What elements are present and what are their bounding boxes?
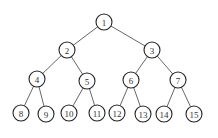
node-label: 1	[102, 18, 107, 28]
node-label: 2	[65, 46, 70, 56]
edge-6-12	[120, 87, 128, 105]
tree-node-12: 12	[109, 105, 125, 121]
node-label: 9	[44, 110, 49, 120]
tree-node-1: 1	[96, 14, 112, 30]
edge-2-4	[43, 56, 61, 74]
tree-node-3: 3	[144, 42, 160, 58]
node-label: 12	[113, 109, 122, 119]
node-label: 4	[35, 75, 40, 85]
node-label: 14	[160, 110, 170, 120]
node-label: 6	[129, 76, 134, 86]
edge-2-5	[71, 57, 82, 75]
node-label: 13	[139, 110, 149, 120]
node-label: 5	[85, 77, 90, 87]
edge-1-3	[111, 26, 145, 46]
tree-node-5: 5	[79, 73, 95, 89]
tree-node-6: 6	[123, 72, 139, 88]
node-label: 7	[176, 76, 181, 86]
binary-tree-diagram: 123456789101112131415	[0, 0, 218, 138]
edge-5-11	[89, 89, 94, 106]
node-label: 3	[150, 46, 155, 56]
node-label: 15	[190, 110, 200, 120]
tree-node-13: 13	[135, 106, 151, 122]
edge-7-14	[167, 87, 175, 106]
node-label: 8	[19, 109, 24, 119]
edge-3-7	[157, 56, 173, 74]
edge-6-13	[134, 88, 141, 107]
tree-nodes: 123456789101112131415	[13, 14, 202, 122]
edge-7-15	[181, 87, 190, 107]
edge-4-9	[39, 87, 44, 107]
edge-3-6	[136, 57, 148, 74]
tree-edges	[24, 26, 190, 107]
tree-node-2: 2	[59, 42, 75, 58]
node-label: 11	[93, 109, 102, 119]
tree-node-4: 4	[29, 71, 45, 87]
edge-4-8	[24, 86, 33, 106]
tree-node-8: 8	[13, 105, 29, 121]
tree-node-14: 14	[156, 106, 172, 122]
node-label: 10	[65, 109, 75, 119]
tree-node-7: 7	[170, 72, 186, 88]
tree-node-11: 11	[89, 105, 105, 121]
edge-1-2	[73, 27, 97, 45]
tree-node-10: 10	[61, 105, 77, 121]
edge-5-10	[73, 88, 83, 106]
tree-node-15: 15	[186, 106, 202, 122]
tree-node-9: 9	[38, 106, 54, 122]
